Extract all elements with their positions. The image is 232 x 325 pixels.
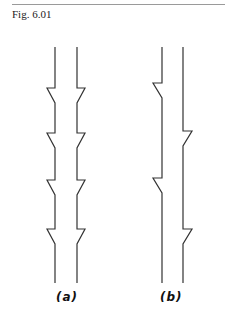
panel-a-label: (a) [56, 290, 78, 304]
panel-a-left-line [47, 47, 55, 283]
figure-drawing [0, 0, 232, 325]
panel-b-label: (b) [160, 290, 183, 304]
panel-a-right-line [77, 47, 85, 283]
panel-b-left-line [153, 47, 162, 283]
panel-b-right-line [183, 47, 192, 283]
panel-b-drawing [153, 47, 192, 283]
panel-a-drawing [47, 47, 85, 283]
